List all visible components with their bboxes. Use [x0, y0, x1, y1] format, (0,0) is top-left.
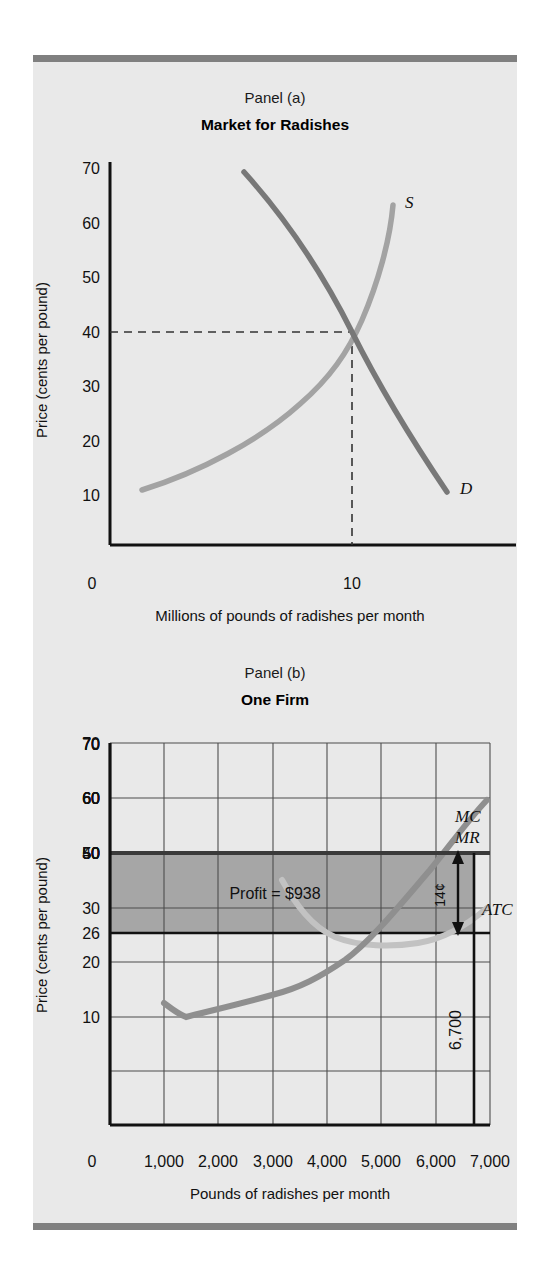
panel-a-title: Market for Radishes	[201, 116, 349, 133]
panel-b-y-tick-labels: 70 60 50	[82, 735, 100, 862]
panel-a-y-axis-label: Price (cents per pound)	[33, 282, 50, 438]
panel-b-tick-60: 60	[82, 790, 100, 807]
panel-a-ytick-30: 30	[82, 378, 100, 395]
panel-a-ytick-70: 70	[82, 160, 100, 177]
panel-a-ytick-20: 20	[82, 433, 100, 450]
panel-b-atc-label: ATC	[481, 900, 513, 919]
panel-b-xtick-3000: 3,000	[253, 1153, 293, 1170]
panel-b-xtick-1000: 1,000	[144, 1153, 184, 1170]
panel-a-y-ticks: 70 60 50 40 30 20 10	[82, 160, 100, 504]
panel-b-mc-label: MC	[454, 807, 481, 826]
panel-b-xtick-2000: 2,000	[198, 1153, 238, 1170]
panel-b-tick-30: 30	[82, 900, 100, 917]
panel-a-label: Panel (a)	[245, 89, 306, 106]
panel-b-tick-40: 40	[82, 845, 100, 862]
panel-b-xtick-7000: 7,000	[470, 1153, 510, 1170]
panel-a-demand-curve	[244, 172, 447, 492]
panel-a-demand-label: D	[459, 479, 473, 498]
panel-b-x-ticks: 0 1,000 2,000 3,000 4,000 5,000 6,000 7,…	[88, 1153, 511, 1170]
panel-a: Panel (a) Market for Radishes Price (cen…	[33, 89, 516, 624]
figure-container: Panel (a) Market for Radishes Price (cen…	[0, 0, 550, 1277]
panel-b-xtick-0: 0	[88, 1153, 97, 1170]
panel-b-tick-20: 20	[82, 954, 100, 971]
panel-a-ytick-60: 60	[82, 215, 100, 232]
panel-b-title: One Firm	[241, 691, 309, 708]
panel-a-ytick-40: 40	[82, 324, 100, 341]
panel-b-margin-label: 14¢	[432, 883, 448, 906]
panel-a-supply-label: S	[405, 193, 414, 212]
panel-b-xtick-6000: 6,000	[416, 1153, 456, 1170]
panel-b-xtick-5000: 5,000	[361, 1153, 401, 1170]
figure-svg: Panel (a) Market for Radishes Price (cen…	[0, 0, 550, 1277]
panel-b-x-axis-label: Pounds of radishes per month	[190, 1185, 390, 1202]
panel-a-xtick-10: 10	[343, 575, 361, 592]
panel-b-quantity-label: 6,700	[447, 1010, 464, 1050]
panel-a-supply-curve	[142, 205, 393, 490]
panel-a-ytick-50: 50	[82, 269, 100, 286]
panel-a-xtick-0: 0	[88, 575, 97, 592]
panel-b-tick-26: 26	[82, 925, 100, 942]
panel-a-ytick-10: 10	[82, 487, 100, 504]
panel-a-x-axis-label: Millions of pounds of radishes per month	[155, 607, 424, 624]
panel-b-profit-label: Profit = $938	[229, 885, 320, 902]
panel-b-tick-70: 70	[82, 735, 100, 752]
panel-b-tick-10: 10	[82, 1009, 100, 1026]
panel-b: Panel (b) One Firm Price (cents per poun…	[33, 664, 513, 1202]
panel-b-y-axis-label: Price (cents per pound)	[33, 857, 50, 1013]
panel-b-mr-label: MR	[454, 828, 480, 847]
panel-b-label: Panel (b)	[245, 664, 306, 681]
panel-b-xtick-4000: 4,000	[307, 1153, 347, 1170]
